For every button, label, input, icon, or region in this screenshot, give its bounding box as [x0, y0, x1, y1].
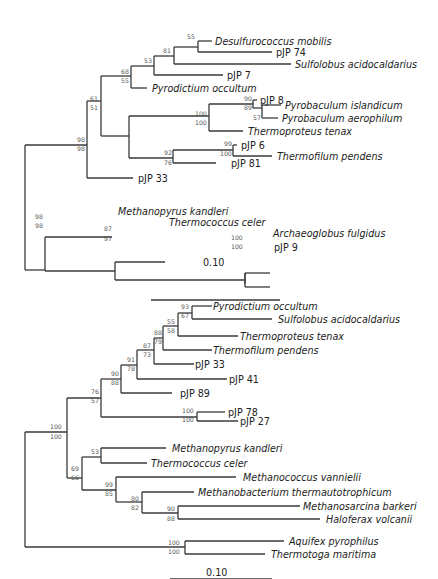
- bootstrap-value: 51: [90, 105, 98, 111]
- bootstrap-value: 58: [167, 328, 175, 334]
- bootstrap-value: 87: [143, 343, 151, 349]
- tree-top-branches: [25, 41, 291, 300]
- taxon-label: pJP 27: [240, 417, 270, 427]
- bootstrap-value: 91: [127, 357, 135, 363]
- bootstrap-value: 53: [144, 58, 152, 64]
- taxon-label: Methanosarcina barkeri: [303, 502, 417, 512]
- bootstrap-value: 68: [121, 69, 129, 75]
- bootstrap-value: 76: [91, 389, 99, 395]
- taxon-label: Pyrodictium occultum: [152, 84, 257, 94]
- taxon-label: Archaeoglobus fulgidus: [273, 229, 385, 239]
- bootstrap-value: 87: [104, 226, 112, 232]
- bootstrap-value: 53: [91, 449, 99, 455]
- taxon-label: pJP 41: [229, 375, 259, 385]
- bootstrap-value: 90: [244, 96, 252, 102]
- taxon-label: Pyrobaculum aerophilum: [282, 114, 402, 124]
- bootstrap-value: 61: [90, 96, 98, 102]
- taxon-label: pJP 89: [180, 389, 210, 399]
- taxon-label: Sulfolobus acidocaldarius: [278, 315, 400, 325]
- bootstrap-value: 100: [220, 151, 232, 157]
- scale-bar-label: 0.10: [206, 568, 227, 578]
- bootstrap-value: 55: [167, 319, 175, 325]
- bootstrap-value: 100: [182, 417, 194, 423]
- bootstrap-value: 100: [168, 549, 180, 555]
- bootstrap-value: 100: [195, 111, 207, 117]
- bootstrap-value: 100: [231, 244, 243, 250]
- bootstrap-value: 80: [131, 496, 139, 502]
- taxon-label: Thermofilum pendens: [277, 152, 383, 162]
- taxon-label: Thermotoga maritima: [271, 550, 376, 560]
- bootstrap-value: 57: [91, 398, 99, 404]
- bootstrap-value: 100: [182, 408, 194, 414]
- bootstrap-value: 100: [195, 120, 207, 126]
- bootstrap-value: 98: [35, 223, 43, 229]
- bootstrap-value: 76: [164, 160, 172, 166]
- bootstrap-value: 67: [181, 313, 189, 319]
- bootstrap-value: 98: [77, 137, 85, 143]
- bootstrap-value: 92: [164, 150, 172, 156]
- bootstrap-value: 90: [167, 506, 175, 512]
- scale-bar-label: 0.10: [203, 258, 224, 268]
- taxon-label: pJP 8: [260, 96, 284, 106]
- taxon-label: Haloferax volcanii: [326, 515, 412, 525]
- taxon-label: Methanopyrus kandleri: [118, 207, 228, 217]
- taxon-label: Pyrobaculum islandicum: [285, 101, 403, 111]
- taxon-label: Thermoproteus tenax: [240, 332, 344, 342]
- taxon-label: pJP 9: [274, 243, 298, 253]
- bootstrap-value: 85: [105, 491, 113, 497]
- taxon-label: Aquifex pyrophilus: [289, 537, 379, 547]
- taxon-label: Thermococcus celer: [151, 459, 248, 469]
- bootstrap-value: 99: [105, 482, 113, 488]
- bootstrap-value: 99: [224, 141, 232, 147]
- taxon-label: pJP 7: [227, 71, 251, 81]
- taxon-label: Thermoproteus tenax: [248, 127, 352, 137]
- bootstrap-value: 98: [35, 214, 43, 220]
- taxon-label: pJP 33: [195, 360, 225, 370]
- taxon-label: Desulfurococcus mobilis: [215, 37, 331, 47]
- bootstrap-value: 97: [104, 236, 112, 242]
- bootstrap-value: 88: [167, 516, 175, 522]
- bootstrap-value: 100: [50, 434, 62, 440]
- taxon-label: Methanococcus vannielii: [243, 473, 361, 483]
- bootstrap-value: 98: [77, 146, 85, 152]
- bootstrap-value: 73: [143, 352, 151, 358]
- bootstrap-value: 88: [154, 330, 162, 336]
- bootstrap-value: 55: [121, 78, 129, 84]
- bootstrap-value: 100: [50, 424, 62, 430]
- taxon-label: pJP 81: [231, 159, 261, 169]
- bootstrap-value: 81: [163, 48, 171, 54]
- taxon-label: pJP 74: [276, 48, 306, 58]
- bootstrap-value: 82: [131, 505, 139, 511]
- bootstrap-value: 79: [154, 339, 162, 345]
- taxon-label: Thermococcus celer: [169, 218, 266, 228]
- bootstrap-value: 90: [111, 371, 119, 377]
- bootstrap-value: 100: [168, 540, 180, 546]
- bootstrap-value: 88: [111, 380, 119, 386]
- taxon-label: Methanopyrus kandleri: [172, 444, 282, 454]
- taxon-label: Methanobacterium thermautotrophicum: [198, 488, 392, 498]
- taxon-label: Pyrodictium occultum: [213, 302, 318, 312]
- bootstrap-value: 89: [244, 105, 252, 111]
- taxon-label: Sulfolobus acidocaldarius: [295, 60, 417, 70]
- bootstrap-value: 100: [231, 235, 243, 241]
- bootstrap-value: 93: [181, 304, 189, 310]
- bootstrap-value: 78: [127, 366, 135, 372]
- taxon-label: Thermofilum pendens: [213, 346, 319, 356]
- bootstrap-value: 69: [71, 466, 79, 472]
- taxon-label: pJP 6: [241, 141, 265, 151]
- taxon-label: pJP 33: [138, 174, 168, 184]
- bootstrap-value: 57: [253, 115, 261, 121]
- bootstrap-value: 66: [71, 475, 79, 481]
- bootstrap-value: 55: [187, 34, 195, 40]
